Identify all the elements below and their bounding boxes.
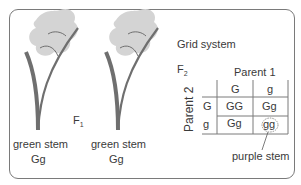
cell-r2-c2: gg [263, 118, 275, 130]
plant-1-icon [26, 9, 78, 130]
plant-1-phenotype: green stem [13, 138, 68, 150]
parent-2-header: Parent 2 [182, 87, 196, 132]
plant-2-icon [106, 9, 158, 130]
grid-title: Grid system [177, 38, 236, 50]
cell-r1-c1: GG [226, 100, 243, 112]
f2-label: F2 [177, 63, 188, 75]
row-allele-1: G [203, 100, 212, 112]
plant-1-genotype: Gg [31, 153, 46, 165]
cell-r2-c1: Gg [227, 117, 242, 129]
parent-1-header: Parent 1 [234, 66, 276, 78]
annotation-pointer [262, 132, 268, 150]
cell-r1-c2: Gg [262, 100, 277, 112]
annotation-label: purple stem [232, 150, 289, 162]
column-allele-1: G [231, 83, 240, 95]
column-allele-2: g [267, 83, 273, 95]
plant-2-genotype: Gg [109, 153, 124, 165]
row-allele-2: g [203, 118, 209, 130]
plant-2-phenotype: green stem [91, 138, 146, 150]
f1-label: F1 [73, 114, 84, 126]
